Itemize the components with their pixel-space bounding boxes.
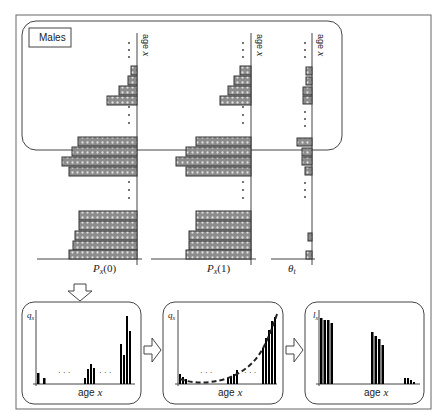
svg-text:age x: age x: [364, 386, 388, 398]
age-axis-label-2: age x: [255, 34, 267, 57]
svg-text:age x: age x: [141, 34, 153, 57]
svg-text:· · ·: · · ·: [244, 368, 256, 377]
svg-text:· · ·: · · ·: [99, 368, 111, 377]
males-label: Males: [39, 32, 66, 43]
caption-px0: Px(0): [92, 262, 116, 276]
svg-text:· · ·: · · ·: [200, 368, 212, 377]
age-axis-label-1: age x: [141, 34, 153, 57]
age-axis-label-3: age x: [316, 34, 328, 57]
figure-clean: Males age x age x age x: [0, 0, 443, 420]
svg-text:age x: age x: [78, 386, 102, 398]
svg-text:age x: age x: [255, 34, 267, 57]
svg-text:· · ·: · · ·: [58, 368, 70, 377]
caption-px1: Px(1): [206, 262, 230, 276]
svg-text:age x: age x: [316, 34, 328, 57]
svg-text:age x: age x: [218, 386, 242, 398]
